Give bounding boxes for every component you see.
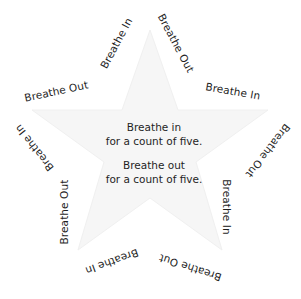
star-shape-icon bbox=[0, 0, 301, 299]
inhale-line-2: for a count of five. bbox=[84, 134, 224, 148]
breathing-star-worksheet: Breathe OutBreathe InBreathe OutBreathe … bbox=[0, 0, 301, 299]
exhale-line-2: for a count of five. bbox=[84, 172, 224, 186]
exhale-line-1: Breathe out bbox=[84, 158, 224, 172]
inhale-instruction: Breathe in for a count of five. bbox=[84, 120, 224, 148]
star-label: Breathe Out bbox=[58, 177, 70, 247]
inhale-line-1: Breathe in bbox=[84, 120, 224, 134]
exhale-instruction: Breathe out for a count of five. bbox=[84, 158, 224, 186]
